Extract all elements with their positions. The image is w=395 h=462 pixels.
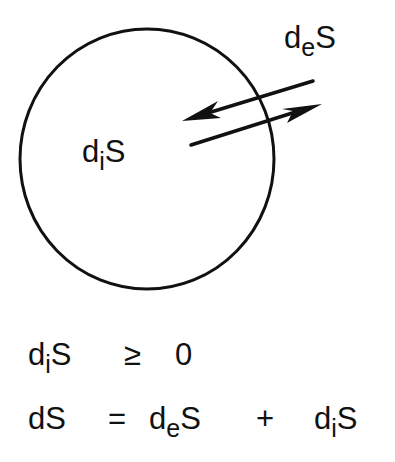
svg-text:diS: diS xyxy=(28,337,72,378)
eq1-lhs-base: d xyxy=(28,337,45,372)
eq1-operator: ≥ xyxy=(124,337,141,372)
eq1-rhs: 0 xyxy=(175,337,192,372)
eq2-equals: = xyxy=(108,401,126,436)
eq2-lhs: dS xyxy=(28,401,66,436)
eq2-term1-base: d xyxy=(149,401,166,436)
eq2-term2-base: d xyxy=(314,401,331,436)
eq2-term2-tail: S xyxy=(337,401,358,436)
eq1-lhs-tail: S xyxy=(51,337,72,372)
eq2-term1-sub: e xyxy=(166,414,180,442)
equation-second-law: diS ≥ 0 xyxy=(28,337,192,378)
system-boundary-circle xyxy=(20,29,274,289)
equation-entropy-balance: dS = deS + diS xyxy=(28,401,358,442)
eq2-plus: + xyxy=(256,401,274,436)
svg-text:diS: diS xyxy=(314,401,358,442)
internal-entropy-label: diS xyxy=(82,134,126,175)
eq2-term1-tail: S xyxy=(180,401,201,436)
entropy-diagram: deS diS diS ≥ 0 dS = deS + diS xyxy=(0,0,395,462)
svg-text:deS: deS xyxy=(149,401,201,442)
external-entropy-label: deS xyxy=(284,20,336,61)
